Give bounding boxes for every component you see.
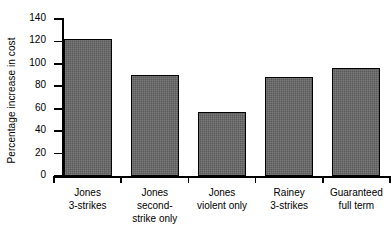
x-tick-4: [322, 176, 324, 183]
y-tick-120: [54, 41, 64, 43]
x-tick-1: [120, 176, 122, 183]
bar-chart-figure: Percentage increase in cost 020406080100…: [0, 0, 391, 240]
y-tick-label-100: 100: [0, 58, 46, 68]
y-tick-20: [54, 153, 64, 155]
x-tick-2: [188, 176, 190, 183]
y-tick-40: [54, 130, 64, 132]
y-tick-label-80: 80: [0, 80, 46, 90]
x-tick-0: [53, 176, 55, 183]
x-category-label-2: Jones violent only: [188, 186, 255, 212]
y-tick-80: [54, 85, 64, 87]
x-tick-3: [255, 176, 257, 183]
y-tick-label-140: 140: [0, 13, 46, 23]
bar-3: [265, 77, 313, 176]
y-tick-label-40: 40: [0, 125, 46, 135]
bar-0: [64, 39, 112, 176]
bar-2: [198, 112, 246, 176]
y-tick-100: [54, 63, 64, 65]
y-tick-140: [54, 18, 64, 20]
x-category-label-3: Rainey 3-strikes: [256, 186, 323, 212]
x-category-label-4: Guaranteed full term: [323, 186, 390, 212]
bar-1: [131, 75, 179, 176]
y-tick-label-20: 20: [0, 148, 46, 158]
plot-area: 020406080100120140 Jones 3-strikesJones …: [0, 0, 391, 240]
y-tick-60: [54, 108, 64, 110]
x-category-label-0: Jones 3-strikes: [54, 186, 121, 212]
y-tick-label-0: 0: [0, 170, 46, 180]
bar-4: [332, 68, 380, 176]
y-tick-0: [54, 175, 64, 177]
x-category-label-1: Jones second- strike only: [121, 186, 188, 225]
x-axis-line: [54, 176, 390, 178]
y-tick-label-60: 60: [0, 103, 46, 113]
y-tick-label-120: 120: [0, 35, 46, 45]
